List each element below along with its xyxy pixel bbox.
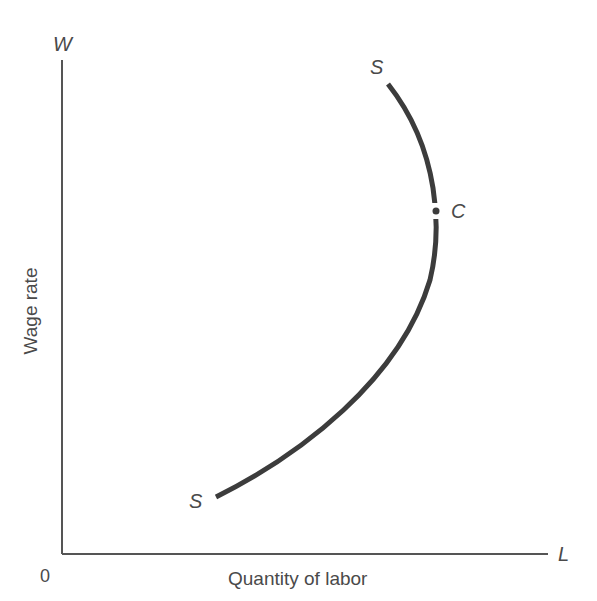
point-c-marker xyxy=(433,208,440,215)
supply-curve xyxy=(216,84,436,497)
point-c-label: C xyxy=(451,200,465,223)
y-axis-symbol: W xyxy=(53,33,72,56)
chart-canvas xyxy=(0,0,597,601)
origin-label: 0 xyxy=(40,566,50,587)
curve-bottom-label: S xyxy=(189,490,202,513)
y-axis-title: Wage rate xyxy=(20,268,42,355)
x-axis-symbol: L xyxy=(558,543,569,566)
curve-top-label: S xyxy=(370,56,383,79)
x-axis-title: Quantity of labor xyxy=(228,568,367,590)
